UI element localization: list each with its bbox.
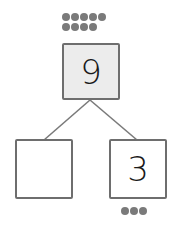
counter-dot: [71, 23, 79, 31]
part-right-value: 3: [127, 149, 149, 189]
counter-dot: [80, 23, 88, 31]
counter-dot: [62, 13, 70, 21]
counter-dot: [121, 207, 129, 215]
counter-dot: [62, 23, 70, 31]
counter-dot: [130, 207, 138, 215]
whole-box: 9: [62, 43, 120, 100]
whole-value: 9: [80, 52, 102, 92]
counter-dot: [98, 13, 106, 21]
part-box-left[interactable]: [15, 139, 73, 199]
counter-dot: [80, 13, 88, 21]
part-box-right: 3: [109, 139, 167, 199]
counter-dot: [89, 13, 97, 21]
counter-dot: [89, 23, 97, 31]
connector-left: [44, 100, 90, 140]
counter-dot: [139, 207, 147, 215]
counter-dot: [71, 13, 79, 21]
connector-right: [90, 100, 137, 140]
